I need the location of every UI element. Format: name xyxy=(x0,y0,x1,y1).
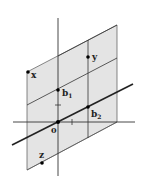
origin-label: 0 xyxy=(51,125,57,135)
x-label: x xyxy=(31,70,37,80)
b1-point xyxy=(56,88,60,92)
lattice-diagram: 0 b1 b2 x y z xyxy=(0,0,141,183)
b2-point xyxy=(86,105,90,109)
y-point xyxy=(86,55,90,59)
origin-point xyxy=(56,120,60,124)
y-label: y xyxy=(91,52,98,62)
z-point xyxy=(40,161,44,165)
z-label: z xyxy=(39,150,44,160)
x-point xyxy=(26,70,30,74)
